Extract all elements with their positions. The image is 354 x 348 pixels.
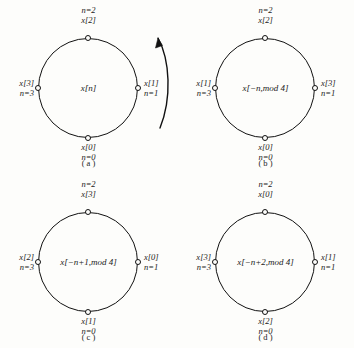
label-top-n: n=2 — [0, 5, 177, 15]
node-marker-top — [262, 35, 268, 41]
label-top-n: n=2 — [177, 179, 354, 189]
label-top-n: n=2 — [0, 179, 177, 189]
label-top: n=2 x[3] — [0, 179, 177, 199]
label-top-x: x[3] — [0, 189, 177, 199]
panel-caption: ( c ) — [0, 332, 177, 342]
label-center: x[−n,mod 4] — [177, 83, 354, 94]
label-top-x: x[2] — [177, 15, 354, 25]
label-bottom-x: x[1] — [0, 316, 177, 326]
panel-caption: ( a ) — [0, 158, 177, 168]
panel-a-stage: n=2 x[2] x[1] n=1 x[0] n=0 x[3] n=3 x[n] — [0, 0, 177, 174]
node-marker-bottom — [262, 135, 268, 141]
label-top-x: x[2] — [0, 15, 177, 25]
label-top: n=2 x[2] — [177, 5, 354, 25]
label-top: n=2 x[0] — [177, 179, 354, 199]
node-marker-top — [85, 35, 91, 41]
node-marker-bottom — [85, 135, 91, 141]
label-top-x: x[0] — [177, 189, 354, 199]
figure-root: n=2 x[2] x[1] n=1 x[0] n=0 x[3] n=3 x[n] — [0, 0, 354, 348]
label-center: x[−n+2,mod 4] — [177, 257, 354, 268]
label-center: x[−n+1,mod 4] — [0, 257, 177, 268]
panel-c: n=2 x[3] x[0] n=1 x[1] n=0 x[2] n=3 x[−n… — [0, 174, 177, 348]
label-top-n: n=2 — [177, 5, 354, 15]
panel-b-stage: n=2 x[2] x[3] n=1 x[0] n=0 x[1] n=3 x[−n… — [177, 0, 354, 174]
panel-caption: ( b ) — [177, 158, 354, 168]
panel-b: n=2 x[2] x[3] n=1 x[0] n=0 x[1] n=3 x[−n… — [177, 0, 354, 174]
node-marker-bottom — [262, 309, 268, 315]
node-marker-top — [85, 209, 91, 215]
label-center: x[n] — [0, 83, 177, 94]
panel-d: n=2 x[0] x[1] n=1 x[2] n=0 x[3] n=3 x[−n… — [177, 174, 354, 348]
label-top: n=2 x[2] — [0, 5, 177, 25]
label-bottom-x: x[0] — [0, 142, 177, 152]
panel-caption: ( d ) — [177, 332, 354, 342]
label-bottom-x: x[2] — [177, 316, 354, 326]
panel-d-stage: n=2 x[0] x[1] n=1 x[2] n=0 x[3] n=3 x[−n… — [177, 174, 354, 348]
node-marker-top — [262, 209, 268, 215]
node-marker-bottom — [85, 309, 91, 315]
panel-c-stage: n=2 x[3] x[0] n=1 x[1] n=0 x[2] n=3 x[−n… — [0, 174, 177, 348]
label-bottom-x: x[0] — [177, 142, 354, 152]
panel-a: n=2 x[2] x[1] n=1 x[0] n=0 x[3] n=3 x[n] — [0, 0, 177, 174]
